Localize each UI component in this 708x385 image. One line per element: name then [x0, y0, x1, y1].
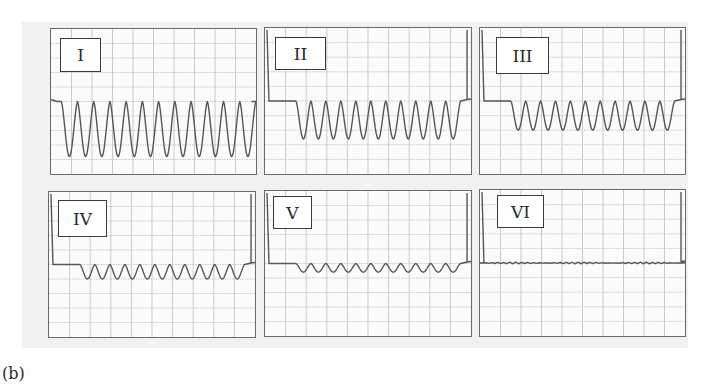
panel-label-1: I [60, 38, 101, 72]
scope-panel-6: VI [479, 189, 686, 337]
scope-panel-3: III [479, 27, 686, 175]
panel-label-3: III [496, 37, 549, 74]
panel-label-2: II [275, 37, 326, 70]
panel-label-4: IV [58, 200, 107, 237]
scope-panel-4: IV [48, 191, 256, 338]
scope-panel-1: I [50, 28, 257, 175]
scope-panel-2: II [264, 27, 472, 175]
scope-panel-5: V [264, 190, 472, 337]
panel-label-6: VI [497, 195, 544, 228]
figure-caption: (b) [2, 364, 25, 383]
panel-label-5: V [273, 196, 312, 229]
